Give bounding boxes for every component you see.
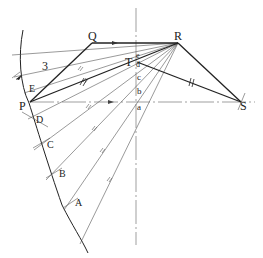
arc-curve (20, 30, 88, 253)
label-d: d (136, 60, 140, 69)
label-c: c (137, 72, 141, 82)
label-b: b (137, 86, 142, 96)
label-A: A (75, 197, 83, 208)
label-B: B (59, 168, 66, 179)
label-T: T (125, 55, 133, 69)
label-D: D (36, 114, 43, 125)
construction-diagram: Q R S P T 3 E D C B A e d c b a (0, 0, 263, 258)
label-a: a (137, 102, 141, 112)
arrow-horizontal (108, 100, 114, 104)
label-P: P (19, 99, 26, 113)
label-S: S (240, 99, 247, 113)
label-Q: Q (88, 29, 97, 43)
label-E: E (29, 83, 35, 94)
label-3: 3 (42, 59, 48, 73)
label-R: R (174, 29, 182, 43)
label-C: C (47, 139, 54, 150)
label-e: e (136, 51, 140, 60)
fan-lines (12, 43, 178, 244)
